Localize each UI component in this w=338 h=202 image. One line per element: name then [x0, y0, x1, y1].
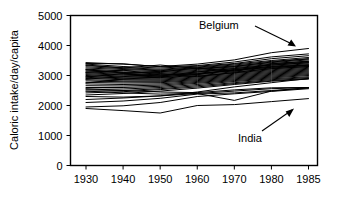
x-axis-tick-labels: 1930194019501960197019801985 [74, 173, 321, 185]
series-lines-group [86, 49, 309, 114]
y-axis-title-text: Caloric intake/day/capita [8, 29, 20, 150]
annotation-belgium-label: Belgium [199, 19, 239, 31]
y-tick-label: 3000 [38, 70, 62, 82]
x-tick-label: 1940 [111, 173, 135, 185]
y-tick-label: 5000 [38, 10, 62, 22]
y-tick-label: 4000 [38, 40, 62, 52]
chart-figure: 010002000300040005000 193019401950196019… [0, 0, 338, 202]
y-tick-label: 2000 [38, 100, 62, 112]
x-tick-label: 1930 [74, 173, 98, 185]
x-tick-label: 1970 [222, 173, 246, 185]
annotation-belgium: Belgium [199, 19, 296, 47]
annotation-belgium-arrow-line [255, 26, 294, 45]
y-tick-label: 0 [56, 160, 62, 172]
y-axis-tick-labels: 010002000300040005000 [38, 10, 62, 172]
x-tick-label: 1950 [148, 173, 172, 185]
x-tick-label: 1985 [296, 173, 320, 185]
annotation-india-label: India [238, 132, 263, 144]
x-tick-label: 1960 [185, 173, 209, 185]
x-tick-label: 1980 [259, 173, 283, 185]
annotation-india: India [238, 109, 294, 145]
annotation-india-arrow-head [286, 109, 294, 118]
y-axis-title: Caloric intake/day/capita [8, 29, 20, 150]
caloric-intake-line-chart: 010002000300040005000 193019401950196019… [0, 0, 338, 202]
y-tick-label: 1000 [38, 130, 62, 142]
